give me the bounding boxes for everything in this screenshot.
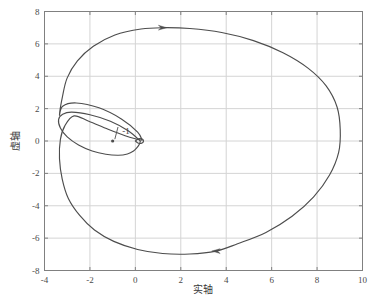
- y-tick-label: -6: [32, 233, 40, 243]
- y-tick-label: 6: [35, 39, 40, 49]
- y-tick-label: 0: [35, 136, 40, 146]
- nyquist-plot-figure: 实轴 虚轴 -1 -4-20246810-8-6-4-202468: [0, 0, 377, 307]
- x-tick-label: 10: [358, 275, 367, 285]
- arrow-bottom-icon: [212, 249, 220, 254]
- x-axis-label: 实轴: [193, 281, 213, 296]
- critical-point-annotation-label: -1: [122, 126, 130, 136]
- plot-canvas: [0, 0, 377, 307]
- x-tick-label: 2: [179, 275, 184, 285]
- y-axis-label: 虚轴: [7, 131, 22, 151]
- x-tick-label: 8: [315, 275, 320, 285]
- x-tick-label: 6: [269, 275, 274, 285]
- gridlines: [45, 12, 363, 271]
- y-tick-label: 8: [35, 7, 40, 17]
- y-tick-label: -2: [32, 168, 40, 178]
- critical-point-marker: [111, 139, 114, 142]
- y-tick-label: -8: [32, 266, 40, 276]
- y-tick-label: 2: [35, 104, 40, 114]
- y-tick-label: -4: [32, 201, 40, 211]
- x-tick-label: -2: [86, 275, 94, 285]
- x-tick-label: -4: [41, 275, 49, 285]
- y-tick-label: 4: [35, 71, 40, 81]
- x-tick-label: 4: [224, 275, 229, 285]
- x-tick-label: 0: [133, 275, 138, 285]
